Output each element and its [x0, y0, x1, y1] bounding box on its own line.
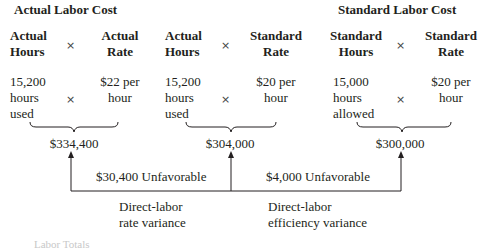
brace-left: [30, 122, 118, 132]
footer-partial-text: Labor Totals: [34, 236, 90, 252]
rate-variance-amount: $30,400 Unfavorable: [96, 169, 206, 185]
brace-middle: [186, 122, 276, 132]
arrow-up-icon: [398, 151, 404, 158]
total-actual-hours-standard-rate: $304,000: [190, 136, 270, 152]
rate-variance-label-line1: Direct-labor: [119, 199, 183, 215]
rate-variance-label-line2: rate variance: [119, 215, 186, 231]
total-actual-cost: $334,400: [34, 136, 114, 152]
brace-right: [357, 122, 451, 132]
efficiency-variance-label-line2: efficiency variance: [268, 215, 367, 231]
efficiency-variance-amount: $4,000 Unfavorable: [266, 169, 370, 185]
total-standard-cost: $300,000: [360, 136, 440, 152]
arrow-up-icon: [68, 151, 74, 158]
efficiency-variance-label-line1: Direct-labor: [268, 199, 332, 215]
arrow-up-icon: [228, 151, 234, 158]
